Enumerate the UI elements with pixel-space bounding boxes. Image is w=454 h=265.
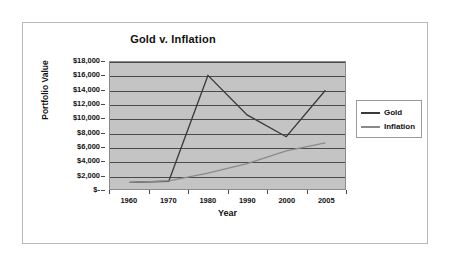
y-axis-tick-labels: $-$2,000$4,000$6,000$8,000$10,000$12,000… (47, 61, 105, 190)
x-axis-tick-mark (149, 190, 150, 194)
y-axis-tick-mark (101, 190, 105, 191)
x-axis-tick-mark (188, 190, 189, 194)
x-axis-tick-label: 1980 (199, 197, 216, 205)
x-axis-tick-label: 1990 (239, 197, 256, 205)
y-axis-tick-mark (101, 176, 105, 177)
y-axis-tick-mark (101, 161, 105, 162)
series-layer (110, 62, 345, 189)
y-axis-tick-label: $4,000 (77, 158, 100, 166)
series-line-gold (130, 75, 326, 182)
chart-frame: Gold v. Inflation Portfolio Value $-$2,0… (22, 22, 428, 244)
y-axis-tick-label: $- (93, 186, 100, 194)
y-axis-tick-label: $14,000 (73, 86, 100, 94)
legend-item-gold[interactable]: Gold (361, 106, 421, 120)
x-axis-tick-label: 1970 (160, 197, 177, 205)
x-axis-tick-label: 2000 (278, 197, 295, 205)
legend-swatch-icon (361, 126, 380, 128)
y-axis-tick-mark (101, 75, 105, 76)
y-axis-tick-label: $12,000 (73, 100, 100, 108)
y-axis-tick-mark (101, 104, 105, 105)
chart-legend[interactable]: GoldInflation (356, 100, 422, 138)
y-axis-tick-label: $8,000 (77, 129, 100, 137)
x-axis-tick-label: 1960 (120, 197, 137, 205)
series-line-inflation (130, 143, 326, 183)
y-axis-tick-mark (101, 133, 105, 134)
x-axis-tick-mark (109, 190, 110, 194)
x-axis-tick-mark (346, 190, 347, 194)
x-axis-tick-mark (267, 190, 268, 194)
plot-area (109, 61, 346, 190)
y-axis-tick-mark (101, 90, 105, 91)
x-axis-tick-label: 2005 (318, 197, 335, 205)
y-axis-tick-mark (101, 118, 105, 119)
y-axis-tick-label: $16,000 (73, 72, 100, 80)
legend-item-inflation[interactable]: Inflation (361, 120, 421, 134)
x-axis-title: Year (109, 208, 346, 218)
y-axis-tick-mark (101, 147, 105, 148)
y-axis-tick-label: $2,000 (77, 172, 100, 180)
legend-item-label: Gold (384, 109, 402, 117)
x-axis-tick-mark (228, 190, 229, 194)
legend-swatch-icon (361, 112, 380, 114)
y-axis-tick-label: $6,000 (77, 143, 100, 151)
legend-item-label: Inflation (384, 123, 415, 131)
y-axis-tick-label: $18,000 (73, 57, 100, 65)
x-axis-tick-labels: 196019701980199020002005 (109, 194, 346, 208)
chart-title: Gold v. Inflation (23, 33, 323, 45)
y-axis-tick-mark (101, 61, 105, 62)
y-axis-tick-label: $10,000 (73, 115, 100, 123)
x-axis-tick-mark (307, 190, 308, 194)
